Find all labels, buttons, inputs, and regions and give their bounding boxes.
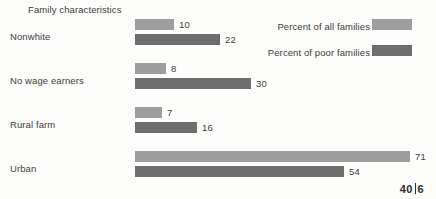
legend-label-all-families: Percent of all families [277,21,370,32]
category-label-rural-farm: Rural farm [10,119,55,130]
bar-value-urban-poor-families: 54 [349,166,360,177]
bar-no-wage-earners-poor-families [135,78,251,89]
category-label-urban: Urban [10,163,36,174]
bar-value-no-wage-earners-poor-families: 30 [256,78,267,89]
bar-urban-all-families [135,151,410,162]
category-label-nonwhite: Nonwhite [10,31,50,42]
bar-nonwhite-poor-families [135,34,220,45]
legend-swatch-poor-families [372,45,412,56]
bar-nonwhite-all-families [135,19,174,30]
page-marker-separator [415,183,416,194]
bar-value-rural-farm-poor-families: 16 [202,122,213,133]
bar-value-rural-farm-all-families: 7 [167,107,172,118]
bar-rural-farm-poor-families [135,122,197,133]
category-label-no-wage-earners: No wage earners [10,75,84,86]
bar-value-nonwhite-poor-families: 22 [225,34,236,45]
legend-label-poor-families: Percent of poor families [268,47,370,58]
bar-value-nonwhite-all-families: 10 [179,19,190,30]
bar-no-wage-earners-all-families [135,63,166,74]
bar-chart: Family characteristics Percent of all fa… [0,0,436,199]
bar-value-no-wage-earners-all-families: 8 [171,63,176,74]
page-marker: 406 [400,183,424,195]
page-marker-left: 40 [400,183,413,195]
bar-urban-poor-families [135,166,344,177]
bar-rural-farm-all-families [135,107,162,118]
chart-title: Family characteristics [28,4,122,15]
legend-swatch-all-families [372,19,412,30]
page-marker-right: 6 [418,183,424,195]
bar-value-urban-all-families: 71 [415,151,426,162]
